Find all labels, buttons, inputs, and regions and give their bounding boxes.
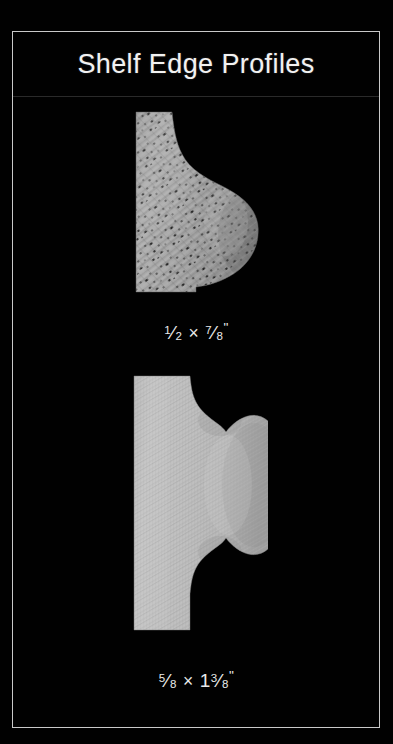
profile-figure-small — [130, 108, 270, 303]
profile-figure-large — [128, 372, 268, 647]
dimension-width-small: 1⁄2 — [164, 322, 182, 344]
shelf-edge-profiles-poster: Shelf Edge Profiles — [0, 0, 393, 744]
inch-mark-small: " — [223, 320, 227, 335]
inch-mark-large: " — [229, 668, 233, 683]
dimension-separator-small: × — [182, 323, 205, 343]
dimension-height-fraction-large: 3⁄8 — [211, 670, 229, 692]
profile-large-body — [128, 372, 268, 647]
title-divider — [13, 96, 379, 97]
caption-profile-large: 5⁄8×13⁄8" — [13, 668, 379, 692]
page-title: Shelf Edge Profiles — [77, 49, 314, 80]
title-bar: Shelf Edge Profiles — [13, 32, 379, 97]
caption-profile-small: 1⁄2×7⁄8" — [13, 320, 379, 344]
dimension-height-whole-large: 1 — [200, 670, 211, 691]
dimension-width-large: 5⁄8 — [159, 670, 177, 692]
dimension-height-small: 7⁄8 — [205, 322, 223, 344]
dimension-separator-large: × — [177, 671, 200, 691]
